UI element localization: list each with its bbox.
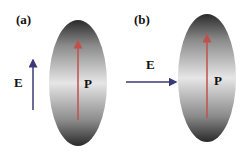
diagram-canvas — [0, 0, 248, 157]
panel-a-ellipsoid — [49, 20, 107, 146]
panel-b-label: (b) — [134, 13, 150, 26]
panel-a-label: (a) — [16, 13, 31, 26]
field-label-b: E — [146, 58, 155, 71]
polarization-label-b: P — [214, 74, 222, 87]
field-label-a: E — [14, 76, 23, 89]
panel-b-ellipsoid — [178, 14, 236, 142]
polarization-label-a: P — [84, 77, 92, 90]
